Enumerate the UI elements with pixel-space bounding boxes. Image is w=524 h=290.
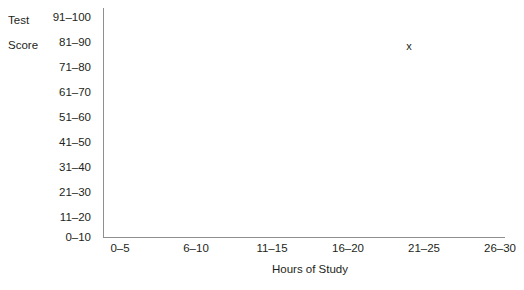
y-tick-label: 41–50 xyxy=(0,136,97,148)
data-point-marker: x xyxy=(406,41,412,52)
y-tick-label: 81–90 xyxy=(0,36,97,48)
y-tick-label: 51–60 xyxy=(0,111,97,123)
x-axis-line xyxy=(103,237,505,238)
y-tick-label: 11–20 xyxy=(0,211,97,223)
scatter-chart: Test Score 91–100 81–90 71–80 61–70 51–6… xyxy=(0,0,524,290)
y-tick-label: 91–100 xyxy=(0,11,97,23)
x-tick-label: 16–20 xyxy=(332,241,364,255)
x-axis-title-wrap: Hours of Study xyxy=(0,262,524,276)
y-tick-label: 31–40 xyxy=(0,161,97,173)
x-axis-tick-labels: 0–5 6–10 11–15 16–20 21–25 26–30 xyxy=(0,241,524,259)
x-tick-label: 26–30 xyxy=(484,241,516,255)
x-axis-title: Hours of Study xyxy=(272,262,348,276)
y-tick-label: 71–80 xyxy=(0,61,97,73)
x-tick-label: 11–15 xyxy=(256,241,287,255)
x-tick-label: 6–10 xyxy=(183,241,209,255)
plot-area: x xyxy=(104,8,505,237)
y-tick-label: 61–70 xyxy=(0,86,97,98)
x-tick-label: 21–25 xyxy=(408,241,440,255)
y-tick-label: 21–30 xyxy=(0,186,97,198)
x-tick-label: 0–5 xyxy=(110,241,129,255)
